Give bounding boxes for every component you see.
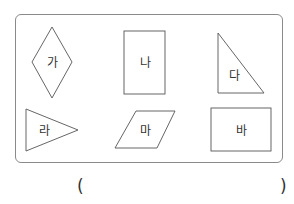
- answer-close-paren: ): [280, 176, 287, 196]
- shapes-figure: 가 나 다 라 마 바: [0, 0, 294, 204]
- label-ba: 바: [236, 124, 247, 138]
- shape-da-right-triangle: [218, 33, 264, 93]
- label-da: 다: [229, 69, 240, 83]
- answer-open-paren: (: [77, 176, 84, 196]
- label-na: 나: [140, 56, 151, 70]
- shape-ra-triangle: [26, 109, 78, 151]
- answer-blank[interactable]: [92, 178, 277, 196]
- label-ma: 마: [140, 124, 151, 138]
- label-ra: 라: [39, 124, 50, 138]
- label-ga: 가: [47, 56, 58, 70]
